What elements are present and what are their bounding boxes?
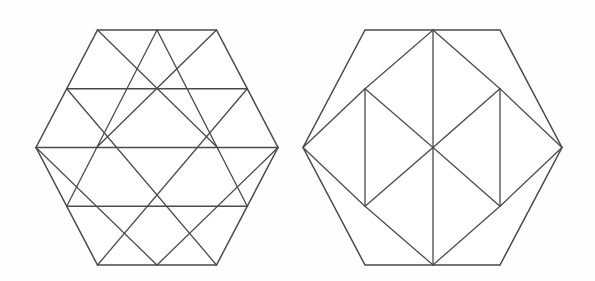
hexagon-diagram-svg: [0, 0, 595, 281]
figure-canvas: [0, 0, 595, 281]
right-hexagon-group: [303, 30, 562, 265]
left-hexagon-group: [36, 30, 278, 265]
